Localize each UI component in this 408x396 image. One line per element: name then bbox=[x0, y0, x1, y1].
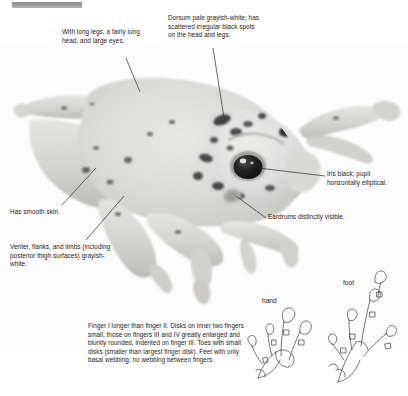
illustration-plate: With long legs, a fairly long head, and … bbox=[0, 0, 408, 396]
callout-eardrums: Eardrums distinctly visible. bbox=[268, 213, 354, 222]
callout-digit-morphology: Finger I longer than finger II. Disks on… bbox=[88, 322, 253, 365]
callout-venter-coloration: Venter, flanks, and limbs (including pos… bbox=[10, 243, 120, 269]
redaction-bar bbox=[12, 2, 82, 8]
callout-smooth-skin: Has smooth skin. bbox=[10, 208, 104, 217]
callout-dorsum-coloration: Dorsum pale grayish-white; has scattered… bbox=[168, 14, 260, 40]
limb-label-foot: foot bbox=[343, 279, 354, 286]
callout-long-legs: With long legs, a fairly long head, and … bbox=[62, 28, 148, 45]
callout-iris-pupil: Iris black; pupil horizontally elliptica… bbox=[327, 170, 399, 187]
limb-label-hand: hand bbox=[262, 297, 277, 304]
